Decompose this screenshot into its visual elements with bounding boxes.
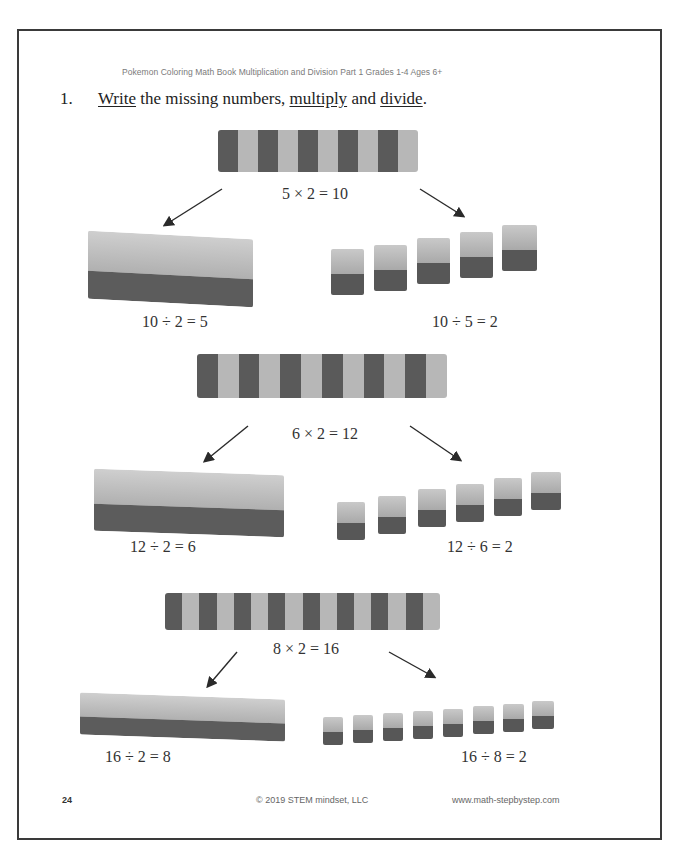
long-brick-2	[94, 469, 284, 538]
cube	[374, 245, 407, 291]
cube	[494, 478, 522, 516]
arrow-icon	[165, 189, 222, 225]
arrow-icon	[420, 189, 463, 216]
arrow-icon	[205, 426, 248, 461]
cube	[418, 489, 446, 527]
cube	[502, 225, 537, 271]
division-equation-1-left: 10 ÷ 2 = 5	[142, 313, 208, 331]
multiplication-equation-3: 8 × 2 = 16	[273, 640, 339, 658]
division-equation-3-right: 16 ÷ 8 = 2	[461, 748, 527, 766]
cube	[456, 484, 484, 522]
cube	[413, 711, 433, 739]
division-equation-2-left: 12 ÷ 2 = 6	[130, 538, 196, 556]
arrow-icon	[389, 652, 434, 677]
multiplication-equation-2: 6 × 2 = 12	[292, 425, 358, 443]
cube	[323, 717, 343, 745]
division-equation-2-right: 12 ÷ 6 = 2	[447, 538, 513, 556]
striped-bar-16	[165, 593, 440, 630]
cube	[353, 715, 373, 743]
division-equation-1-right: 10 ÷ 5 = 2	[432, 313, 498, 331]
cube	[532, 701, 554, 729]
cube	[503, 704, 524, 732]
copyright-text: © 2019 STEM mindset, LLC	[256, 795, 368, 805]
cube	[383, 713, 403, 741]
long-brick-3	[80, 692, 285, 741]
cube	[417, 238, 450, 284]
cube	[460, 232, 493, 278]
multiplication-equation-1: 5 × 2 = 10	[282, 185, 348, 203]
division-equation-3-left: 16 ÷ 2 = 8	[105, 748, 171, 766]
cube	[378, 496, 406, 534]
cube	[473, 706, 494, 734]
striped-bar-10	[218, 130, 418, 172]
cube	[331, 249, 364, 295]
cube	[337, 502, 365, 540]
cube	[443, 709, 463, 737]
long-brick-1	[88, 231, 253, 308]
cube	[531, 472, 561, 510]
website-link[interactable]: www.math-stepbystep.com	[452, 795, 560, 805]
page-number: 24	[62, 795, 72, 805]
striped-bar-12	[197, 354, 447, 398]
arrow-icon	[208, 652, 237, 686]
arrow-icon	[410, 426, 460, 460]
